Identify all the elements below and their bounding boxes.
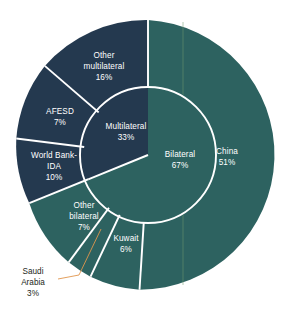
svg-text:6%: 6% — [120, 245, 132, 254]
svg-text:China: China — [216, 147, 238, 156]
svg-text:Saudi: Saudi — [23, 267, 44, 276]
svg-text:67%: 67% — [172, 161, 189, 170]
svg-text:Other: Other — [94, 51, 115, 60]
svg-text:7%: 7% — [54, 118, 66, 127]
svg-text:16%: 16% — [96, 73, 113, 82]
svg-text:World Bank-: World Bank- — [31, 151, 77, 160]
label-saudi-arabia: Saudi Arabia 3% — [21, 267, 45, 298]
svg-text:3%: 3% — [27, 289, 39, 298]
svg-text:Other: Other — [74, 201, 95, 210]
svg-text:Bilateral: Bilateral — [165, 150, 196, 159]
pie-chart-svg: China 51% Bilateral 67% Multilateral 33%… — [0, 0, 295, 320]
svg-text:Multilateral: Multilateral — [106, 122, 147, 131]
svg-text:IDA: IDA — [47, 162, 61, 171]
svg-text:10%: 10% — [46, 173, 63, 182]
svg-text:7%: 7% — [78, 223, 90, 232]
pie-chart-figure: China 51% Bilateral 67% Multilateral 33%… — [0, 0, 295, 320]
svg-text:AFESD: AFESD — [46, 107, 74, 116]
svg-text:Kuwait: Kuwait — [113, 234, 139, 243]
svg-text:Arabia: Arabia — [21, 278, 45, 287]
svg-text:33%: 33% — [118, 133, 135, 142]
svg-text:51%: 51% — [219, 158, 236, 167]
svg-text:multilateral: multilateral — [84, 62, 125, 71]
svg-text:bilateral: bilateral — [69, 212, 99, 221]
